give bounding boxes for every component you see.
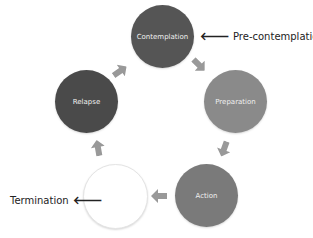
stage-label: Relapse — [73, 98, 101, 106]
arrow-left-icon: 🡐 — [200, 29, 229, 43]
arrow-left-icon: 🡐 — [73, 193, 102, 207]
termination-label: Termination 🡐 — [10, 193, 102, 207]
arrow-relapse-to-contemplation-icon — [109, 61, 130, 82]
stage-label: Action — [196, 192, 218, 200]
arrow-action-to-termination-icon — [151, 189, 167, 203]
pre-contemplation-label: 🡐 Pre-contemplation — [200, 29, 313, 43]
stage-contemplation: Contemplation — [131, 5, 194, 68]
stage-label: Preparation — [215, 98, 255, 106]
arrow-termination-to-relapse-icon — [90, 139, 107, 157]
stage-label: Contemplation — [137, 33, 189, 41]
stage-relapse: Relapse — [55, 70, 118, 133]
stage-action: Action — [175, 164, 238, 227]
arrow-contemplation-to-preparation-icon — [188, 54, 209, 75]
arrow-preparation-to-action-icon — [215, 139, 234, 159]
stage-preparation: Preparation — [204, 70, 267, 133]
